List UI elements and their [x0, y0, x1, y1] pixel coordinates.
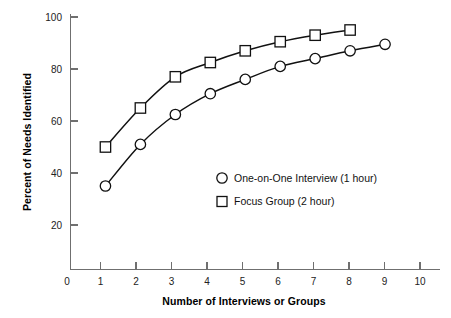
- data-point-focus-group-5: [240, 46, 250, 56]
- data-point-focus-group-6: [275, 37, 285, 47]
- x-tick-label-1: 1: [98, 276, 104, 287]
- y-axis-ticks: [71, 17, 79, 225]
- legend-label-focus-group: Focus Group (2 hour): [234, 195, 334, 207]
- x-axis-title: Number of Interviews or Groups: [162, 295, 326, 307]
- data-point-one-on-one-3: [170, 109, 180, 119]
- x-tick-label-6: 6: [275, 276, 281, 287]
- x-tick-label-0: 0: [64, 276, 70, 287]
- data-point-focus-group-4: [205, 57, 215, 67]
- x-axis-ticks: [101, 262, 421, 270]
- y-tick-label-100: 100: [45, 12, 62, 23]
- y-axis-title: Percent of Needs Identified: [21, 73, 33, 211]
- x-tick-label-3: 3: [169, 276, 175, 287]
- data-point-one-on-one-4: [205, 89, 215, 99]
- x-tick-label-9: 9: [382, 276, 388, 287]
- legend-square-icon: [217, 197, 227, 207]
- chart-container: 100 80 60 40 20 0 1 2 3 4 5 6 7 8 9 10: [0, 0, 451, 318]
- data-point-one-on-one-1: [100, 181, 110, 191]
- x-tick-label-4: 4: [204, 276, 210, 287]
- y-tick-label-80: 80: [51, 64, 63, 75]
- y-tick-label-20: 20: [51, 220, 63, 231]
- x-tick-label-10: 10: [414, 276, 426, 287]
- legend-label-one-on-one: One-on-One Interview (1 hour): [234, 172, 377, 184]
- series-layer: [100, 25, 390, 191]
- data-point-one-on-one-9: [380, 39, 390, 49]
- y-tick-label-40: 40: [51, 168, 63, 179]
- x-tick-label-2: 2: [133, 276, 139, 287]
- data-point-focus-group-2: [135, 103, 145, 113]
- series-line-one-on-one: [105, 44, 385, 186]
- x-tick-label-5: 5: [240, 276, 246, 287]
- x-tick-label-7: 7: [311, 276, 317, 287]
- x-tick-label-8: 8: [346, 276, 352, 287]
- data-point-focus-group-8: [345, 25, 355, 35]
- data-point-focus-group-7: [310, 30, 320, 40]
- data-point-one-on-one-2: [135, 139, 145, 149]
- chart-legend: One-on-One Interview (1 hour) Focus Grou…: [217, 172, 377, 207]
- chart-plot-area: 100 80 60 40 20 0 1 2 3 4 5 6 7 8 9 10: [0, 0, 451, 318]
- y-tick-label-60: 60: [51, 116, 63, 127]
- data-point-one-on-one-6: [275, 61, 285, 71]
- data-point-focus-group-1: [100, 142, 110, 152]
- data-point-one-on-one-8: [345, 46, 355, 56]
- series-line-focus-group: [105, 30, 350, 147]
- legend-circle-icon: [217, 173, 227, 183]
- data-point-focus-group-3: [170, 72, 180, 82]
- data-point-one-on-one-7: [310, 53, 320, 63]
- data-point-one-on-one-5: [240, 74, 250, 84]
